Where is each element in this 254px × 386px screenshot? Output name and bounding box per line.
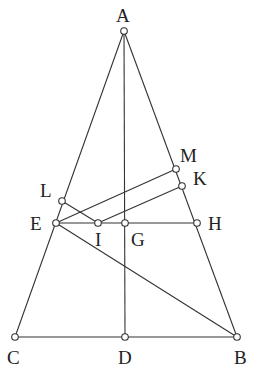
point-E [53, 220, 60, 227]
segment-IK [98, 186, 182, 223]
point-M [173, 166, 180, 173]
point-C [12, 334, 19, 341]
segment-LI [62, 201, 98, 223]
label-I: I [95, 229, 101, 250]
segment-AC [15, 31, 124, 337]
point-B [234, 334, 241, 341]
label-M: M [180, 145, 197, 166]
label-H: H [208, 213, 222, 234]
point-A [121, 28, 128, 35]
label-A: A [116, 5, 130, 26]
label-C: C [7, 347, 20, 368]
point-H [194, 220, 201, 227]
point-I [95, 220, 102, 227]
label-B: B [234, 347, 247, 368]
point-D [122, 334, 129, 341]
segment-AD [124, 31, 125, 337]
label-E: E [30, 213, 42, 234]
point-K [179, 183, 186, 190]
geometry-diagram: A M K L E I G H C D B [0, 0, 254, 386]
segment-EB [56, 223, 237, 337]
label-K: K [193, 168, 207, 189]
label-D: D [118, 347, 132, 368]
label-L: L [40, 180, 52, 201]
point-L [59, 198, 66, 205]
point-G [122, 220, 129, 227]
label-G: G [131, 229, 145, 250]
